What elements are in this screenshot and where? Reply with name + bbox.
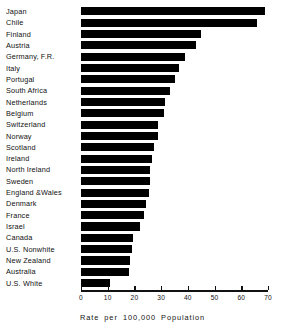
bar-row [81,119,268,130]
x-axis-tick [215,286,216,290]
bar-row [81,74,268,85]
x-axis-tick-label: 70 [264,294,272,301]
bar-row [81,142,268,153]
x-axis-tick [81,286,82,290]
x-axis-tick-label: 50 [211,294,219,301]
bar [81,132,158,140]
bar [81,19,257,27]
bar-row [81,187,268,198]
category-label: Finland [0,29,74,40]
category-label: Australia [0,266,74,277]
bar-row [81,131,268,142]
bar-row [81,176,268,187]
category-label: Belgium [0,108,74,119]
category-label: England &Wales [0,187,74,198]
category-label: Chile [0,17,74,28]
bar [81,245,132,253]
bar [81,211,144,219]
bar [81,155,152,163]
bar [81,234,133,242]
category-label: Ireland [0,153,74,164]
bar-row [81,85,268,96]
bar [81,30,201,38]
bar-chart: JapanChileFinlandAustriaGermany, F.R.Ita… [0,0,285,330]
category-label: Canada [0,232,74,243]
bar [81,143,154,151]
category-label: U.S. White [0,278,74,289]
category-label: Switzerland [0,119,74,130]
bar [81,87,170,95]
x-axis-tick-label: 40 [184,294,192,301]
category-label: New Zealand [0,255,74,266]
bar [81,279,110,287]
bar [81,268,129,276]
category-label: Sweden [0,176,74,187]
bar-row [81,97,268,108]
bar-row [81,164,268,175]
bar [81,222,140,230]
bar-row [81,266,268,277]
x-axis-tick-label: 60 [237,294,245,301]
bar [81,121,158,129]
x-axis-tick [268,286,269,290]
bar [81,166,150,174]
bar-row [81,108,268,119]
category-label: Norway [0,131,74,142]
bar-row [81,221,268,232]
x-axis-tick-label: 10 [104,294,112,301]
category-label: North Ireland [0,164,74,175]
bar-row [81,29,268,40]
x-axis-tick-label: 0 [79,294,83,301]
bar-row [81,6,268,17]
bar-row [81,51,268,62]
bar [81,256,130,264]
category-label: Netherlands [0,97,74,108]
bar-row [81,255,268,266]
bar-row [81,63,268,74]
category-label: Portugal [0,74,74,85]
bar-row [81,210,268,221]
bar-row [81,17,268,28]
x-axis-tick [134,286,135,290]
bar [81,200,146,208]
bar-row [81,153,268,164]
bar [81,41,196,49]
bar [81,75,175,83]
bar-row [81,40,268,51]
bar [81,64,179,72]
category-label: Germany, F.R. [0,51,74,62]
bar [81,189,149,197]
bar [81,7,265,15]
category-label-column: JapanChileFinlandAustriaGermany, F.R.Ita… [0,6,78,290]
bar [81,177,150,185]
category-label: Japan [0,6,74,17]
bar-row [81,278,268,289]
x-axis-tick [188,286,189,290]
x-axis-tick [241,286,242,290]
category-label: South Africa [0,85,74,96]
category-label: U.S. Nonwhite [0,244,74,255]
bar [81,53,185,61]
x-axis-title: Rate per 100,000 Population [0,313,285,322]
bar-row [81,198,268,209]
x-axis: 010203040506070 [81,290,268,292]
plot-area [81,6,268,290]
category-label: Israel [0,221,74,232]
x-axis-tick-label: 30 [157,294,165,301]
category-label: Scotland [0,142,74,153]
category-label: France [0,210,74,221]
bar [81,109,164,117]
x-axis-tick [108,286,109,290]
category-label: Italy [0,63,74,74]
x-axis-tick [161,286,162,290]
bar-row [81,232,268,243]
x-axis-tick-label: 20 [131,294,139,301]
bar-row [81,244,268,255]
bar [81,98,165,106]
category-label: Denmark [0,198,74,209]
category-label: Austria [0,40,74,51]
